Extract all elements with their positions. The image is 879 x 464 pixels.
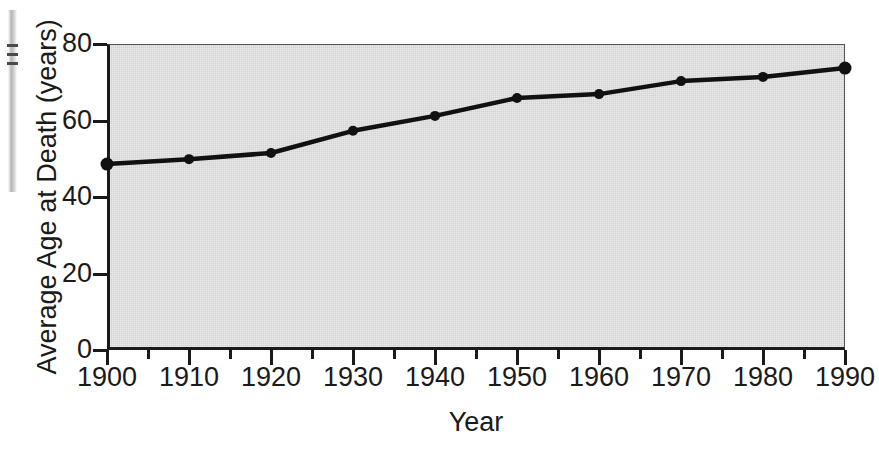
y-tick-mark [93, 196, 107, 199]
y-axis-title: Average Age at Death (years) [34, 45, 61, 375]
x-tick-label: 1910 [159, 364, 219, 391]
y-tick-mark [93, 120, 107, 123]
x-tick-mark [434, 350, 437, 365]
plot-area [107, 44, 845, 350]
x-axis-title: Year [0, 409, 879, 436]
x-tick-mark-minor [393, 350, 396, 359]
x-tick-mark [106, 350, 109, 365]
x-tick-mark-minor [721, 350, 724, 359]
x-tick-mark-minor [311, 350, 314, 359]
x-tick-label: 1980 [733, 364, 793, 391]
x-tick-label: 1970 [651, 364, 711, 391]
x-tick-mark [352, 350, 355, 365]
x-tick-mark [516, 350, 519, 365]
x-tick-label: 1900 [77, 364, 137, 391]
x-axis-ticks: 1900191019201930194019501960197019801990 [0, 364, 874, 404]
x-tick-mark [762, 350, 765, 365]
x-tick-label: 1920 [241, 364, 301, 391]
y-tick-mark [93, 349, 107, 352]
x-tick-label: 1990 [815, 364, 875, 391]
y-tick-label: 20 [62, 260, 92, 287]
x-tick-mark [188, 350, 191, 365]
x-tick-mark [270, 350, 273, 365]
y-tick-mark [93, 43, 107, 46]
y-tick-label: 40 [62, 183, 92, 210]
x-tick-mark-minor [229, 350, 232, 359]
x-tick-label: 1940 [405, 364, 465, 391]
x-tick-label: 1950 [487, 364, 547, 391]
x-tick-mark-minor [803, 350, 806, 359]
x-tick-mark [680, 350, 683, 365]
x-tick-label: 1930 [323, 364, 383, 391]
x-tick-mark-minor [639, 350, 642, 359]
x-tick-mark [844, 350, 847, 365]
y-tick-mark [93, 273, 107, 276]
x-tick-mark-minor [147, 350, 150, 359]
x-tick-label: 1960 [569, 364, 629, 391]
y-tick-label: 0 [77, 336, 92, 363]
x-tick-mark-minor [475, 350, 478, 359]
x-tick-mark-minor [557, 350, 560, 359]
x-tick-mark [598, 350, 601, 365]
y-tick-label: 80 [62, 30, 92, 57]
y-tick-label: 60 [62, 107, 92, 134]
